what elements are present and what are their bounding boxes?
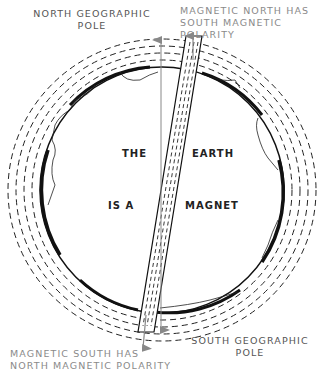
inner-text-is-a: IS A (108, 200, 134, 211)
label-line: POLE (190, 347, 310, 359)
inner-text-the: THE (122, 148, 147, 159)
label-line: SOUTH MAGNETIC (180, 17, 309, 29)
label-line: MAGNETIC NORTH HAS (180, 5, 309, 17)
inner-text-magnet: MAGNET (185, 200, 239, 211)
label-line: SOUTH GEOGRAPHIC (190, 335, 310, 347)
label-line: POLARITY (180, 29, 309, 41)
south-geographic-pole-label: SOUTH GEOGRAPHIC POLE (190, 335, 310, 359)
earth-magnet-diagram (0, 0, 319, 379)
label-line: NORTH MAGNETIC POLARITY (10, 360, 171, 372)
magnetic-south-label: MAGNETIC SOUTH HAS NORTH MAGNETIC POLARI… (10, 348, 171, 372)
north-geographic-pole-label: NORTH GEOGRAPHIC POLE (22, 8, 162, 32)
label-line: MAGNETIC SOUTH HAS (10, 348, 171, 360)
magnetic-north-label: MAGNETIC NORTH HAS SOUTH MAGNETIC POLARI… (180, 5, 309, 41)
label-line: NORTH GEOGRAPHIC (22, 8, 162, 20)
label-line: POLE (22, 20, 162, 32)
inner-text-earth: EARTH (192, 148, 234, 159)
